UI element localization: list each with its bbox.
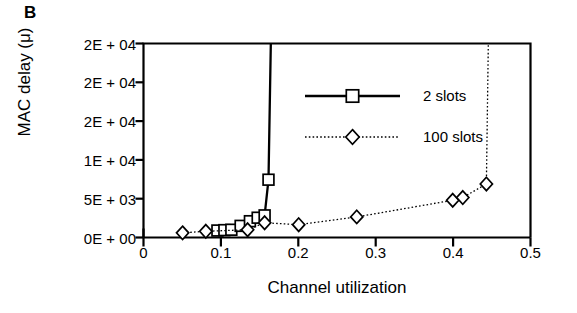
legend-label-100-slots: 100 slots	[423, 128, 483, 145]
data-point-100-slots-8	[480, 177, 492, 190]
data-point-100-slots-1	[200, 225, 212, 238]
legend-marker-1	[346, 130, 359, 145]
data-point-100-slots-6	[447, 194, 459, 207]
data-point-100-slots-7	[457, 191, 469, 204]
plot-canvas	[0, 0, 577, 313]
data-point-2-slots-7	[263, 174, 274, 185]
legend-label-2-slots: 2 slots	[423, 87, 466, 104]
data-point-100-slots-4	[293, 218, 305, 231]
data-point-100-slots-5	[351, 210, 363, 223]
chart-figure: B MAC delay (μ) 0E + 005E + 031E + 042E …	[0, 0, 577, 313]
legend-marker-0	[346, 90, 358, 102]
series-line-2-slots	[217, 44, 270, 231]
